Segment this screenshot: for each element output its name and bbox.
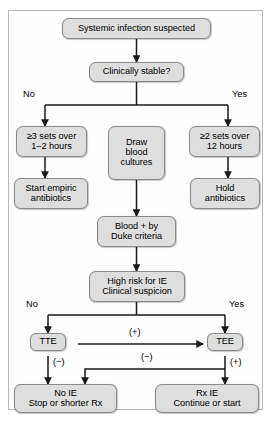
node-rx-ie: Rx IE Continue or start: [155, 384, 259, 413]
node-hold-antibiotics: Hold antibiotics: [190, 178, 260, 209]
node-draw-cultures: Draw blood cultures: [108, 126, 165, 180]
node-clinically-stable: Clinically stable?: [89, 62, 184, 82]
node-blood-duke: Blood + by Duke criteria: [97, 216, 176, 247]
edge-label-tte-negative: (−): [53, 357, 64, 367]
edge-label-tee-positive: (+): [230, 357, 241, 367]
node-three-sets: ≥3 sets over 1–2 hours: [16, 126, 87, 157]
edge-label-tee-negative: (−): [141, 352, 152, 362]
edge-tee-to-noie-negative: [85, 369, 225, 384]
edge-label-stable-no: No: [23, 89, 35, 99]
edge-label-risk-yes: Yes: [229, 299, 244, 309]
node-systemic-infection: Systemic infection suspected: [62, 18, 211, 39]
node-no-ie: No IE Stop or shorter Rx: [14, 384, 117, 413]
node-tte: TTE: [30, 333, 66, 351]
edge-label-stable-yes: Yes: [232, 89, 247, 99]
node-tee: TEE: [207, 333, 243, 351]
node-two-sets: ≥2 sets over 12 hours: [189, 126, 260, 157]
node-start-empiric: Start empiric antibiotics: [14, 178, 88, 209]
node-high-risk: High risk for IE Clinical suspicion: [89, 271, 185, 302]
edge-label-tte-positive: (+): [129, 327, 140, 337]
edge-label-risk-no: No: [26, 299, 38, 309]
flowchart-figure: Systemic infection suspected Clinically …: [0, 0, 273, 421]
